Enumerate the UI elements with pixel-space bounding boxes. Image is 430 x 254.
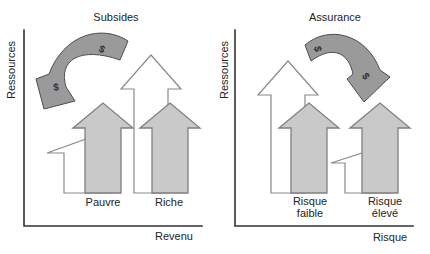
- category-label-risque-eleve: Risque élevé: [358, 195, 412, 219]
- transfer-arrow-assurance: [305, 34, 390, 102]
- left-x-axis-label: Revenu: [134, 230, 214, 242]
- right-y-axis-label: Ressources: [218, 25, 230, 115]
- right-panel-title: Assurance: [285, 11, 385, 23]
- left-y-axis-label: Ressources: [5, 25, 17, 115]
- right-x-axis-label: Risque: [350, 231, 430, 243]
- transfer-arrow-subsides: [36, 33, 128, 109]
- category-label-risque-faible: Risque faible: [283, 195, 337, 219]
- dollar-icon: $: [53, 81, 60, 92]
- figure-canvas: Subsides Assurance Ressources Ressources…: [0, 0, 430, 254]
- category-label-riche: Riche: [129, 196, 209, 208]
- left-panel-title: Subsides: [66, 11, 166, 23]
